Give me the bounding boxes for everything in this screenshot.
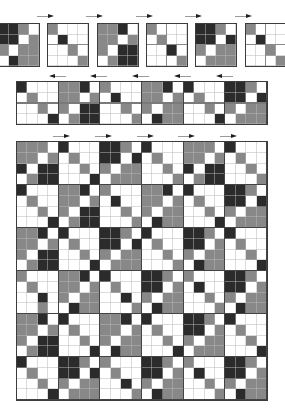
cell-black — [215, 174, 225, 185]
cell-gray — [205, 250, 215, 261]
cell-white — [246, 35, 256, 46]
cell-white — [121, 357, 131, 368]
cell-gray — [17, 228, 27, 239]
cell-gray — [59, 282, 69, 293]
cell-white — [246, 239, 256, 250]
cell-white — [78, 35, 88, 46]
cell-gray — [59, 82, 69, 93]
cell-gray — [173, 282, 183, 293]
cell-white — [69, 142, 79, 153]
cell-white — [225, 153, 235, 164]
cell-gray — [27, 239, 37, 250]
cell-black — [225, 314, 235, 325]
cell-white — [90, 314, 100, 325]
cell-gray — [100, 164, 110, 175]
arrow-head — [132, 74, 138, 78]
cell-gray — [196, 45, 206, 56]
cell-white — [9, 45, 19, 56]
cell-white — [236, 164, 246, 175]
cell-gray — [152, 196, 162, 207]
cell-gray — [59, 103, 69, 114]
cell-white — [184, 293, 194, 304]
cell-black — [38, 346, 48, 357]
cell-gray — [17, 153, 27, 164]
cell-gray — [194, 142, 204, 153]
cell-gray — [173, 93, 183, 104]
cell-gray — [80, 303, 90, 314]
cell-white — [142, 174, 152, 185]
cell-white — [257, 164, 267, 175]
cell-black — [257, 260, 267, 271]
cell-black — [118, 24, 128, 35]
cell-black — [128, 45, 138, 56]
cell-gray — [142, 379, 152, 390]
cell-gray — [121, 260, 131, 271]
cell-white — [69, 260, 79, 271]
cell-white — [257, 271, 267, 282]
cell-white — [17, 282, 27, 293]
cell-white — [157, 56, 167, 67]
cell-black — [184, 185, 194, 196]
cell-gray — [100, 250, 110, 261]
cell-black — [121, 293, 131, 304]
cell-white — [80, 314, 90, 325]
cell-white — [68, 35, 78, 46]
cell-black — [163, 82, 173, 93]
cell-white — [246, 196, 256, 207]
cell-black — [100, 239, 110, 250]
cell-white — [173, 314, 183, 325]
cell-white — [257, 153, 267, 164]
cell-gray — [194, 346, 204, 357]
cell-white — [27, 271, 37, 282]
cell-gray — [246, 250, 256, 261]
cell-white — [142, 336, 152, 347]
cell-white — [184, 93, 194, 104]
cell-black — [167, 45, 177, 56]
cell-white — [38, 185, 48, 196]
cell-white — [215, 228, 225, 239]
cell-gray — [215, 239, 225, 250]
cell-black — [38, 293, 48, 304]
cell-white — [142, 250, 152, 261]
cell-black — [38, 260, 48, 271]
cell-white — [100, 207, 110, 218]
cell-black — [90, 346, 100, 357]
cell-gray — [69, 325, 79, 336]
cell-gray — [121, 228, 131, 239]
cell-white — [194, 303, 204, 314]
cell-black — [0, 35, 9, 46]
cell-white — [121, 153, 131, 164]
cell-white — [194, 336, 204, 347]
arrow-head — [216, 74, 222, 78]
cell-white — [100, 379, 110, 390]
cell-white — [17, 303, 27, 314]
cell-white — [100, 303, 110, 314]
cell-gray — [163, 357, 173, 368]
cell-black — [48, 114, 58, 125]
cell-gray — [246, 389, 256, 400]
cell-gray — [266, 45, 276, 56]
cell-gray — [17, 142, 27, 153]
cell-gray — [257, 389, 267, 400]
cell-black — [59, 314, 69, 325]
cell-white — [38, 368, 48, 379]
cell-white — [69, 207, 79, 218]
cell-white — [111, 185, 121, 196]
cell-white — [121, 82, 131, 93]
cell-white — [194, 389, 204, 400]
cell-white — [80, 174, 90, 185]
cell-gray — [205, 103, 215, 114]
arrow-right-icon — [137, 134, 154, 139]
cell-white — [59, 325, 69, 336]
cell-white — [205, 185, 215, 196]
cell-gray — [121, 142, 131, 153]
cell-gray — [27, 142, 37, 153]
cell-white — [48, 379, 58, 390]
cell-white — [236, 379, 246, 390]
cell-black — [196, 24, 206, 35]
cell-white — [48, 35, 58, 46]
cell-white — [100, 217, 110, 228]
cell-black — [58, 35, 68, 46]
cell-gray — [27, 346, 37, 357]
cell-black — [132, 153, 142, 164]
